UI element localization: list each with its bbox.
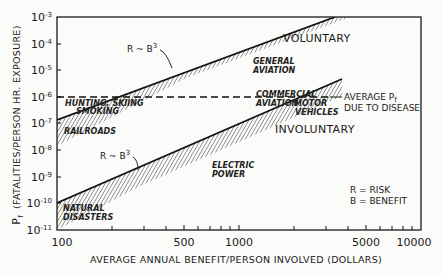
x-axis-title: AVERAGE ANNUAL BENEFIT/PERSON INVOLVED (…	[90, 254, 382, 265]
svg-text:5000: 5000	[352, 236, 380, 249]
svg-text:10-10: 10-10	[27, 197, 52, 210]
rb3-voluntary-label: R ~ B3	[127, 42, 157, 54]
svg-text:10-8: 10-8	[31, 144, 52, 157]
natural-disasters-label-2: DISASTERS	[63, 213, 113, 222]
risk-benefit-chart: 10-3 10-4 10-5 10-6 10-7 10-8 10-9 10-10…	[0, 0, 442, 274]
general-aviation-label: GENERAL	[253, 57, 295, 66]
svg-text:10-6: 10-6	[31, 91, 53, 104]
rb3-voluntary-arrow	[160, 50, 172, 68]
smoking-label: SMOKING	[76, 107, 119, 116]
natural-disasters-label: NATURAL	[63, 204, 105, 213]
svg-text:10-3: 10-3	[31, 11, 52, 24]
svg-text:100: 100	[52, 236, 73, 249]
voluntary-label: VOLUNTARY	[283, 32, 351, 45]
disease-label-2: DUE TO DISEASE	[344, 103, 420, 113]
legend-risk: R = RISK	[350, 185, 391, 195]
general-aviation-label-2: AVIATION	[252, 66, 295, 75]
svg-text:10-7: 10-7	[31, 117, 52, 130]
svg-text:500: 500	[174, 236, 195, 249]
commercial-aviation-label-2: AVIATION	[255, 99, 298, 108]
electric-power-label: ELECTRIC	[212, 161, 254, 170]
svg-text:10-9: 10-9	[31, 171, 52, 184]
involuntary-label: INVOLUNTARY	[275, 123, 355, 136]
commercial-aviation-label: COMMERCIAL	[256, 90, 316, 99]
x-tick-labels: 100 500 1000 5000 10000	[52, 236, 432, 249]
motor-vehicles-label: MOTOR	[294, 99, 327, 108]
svg-text:10-5: 10-5	[31, 64, 52, 77]
svg-text:10000: 10000	[397, 236, 432, 249]
rb3-involuntary-label: R ~ B3	[100, 149, 130, 161]
svg-text:10-4: 10-4	[31, 38, 53, 51]
railroads-label: RAILROADS	[64, 127, 116, 136]
electric-power-label-2: POWER	[212, 170, 245, 179]
svg-text:1000: 1000	[225, 236, 253, 249]
legend-benefit: B = BENEFIT	[350, 196, 408, 206]
svg-text:Pf(FATALITIES/PERSON HR. EXPOS: Pf(FATALITIES/PERSON HR. EXPOSURE)	[10, 25, 25, 224]
x-axis	[112, 225, 412, 230]
y-axis-title: Pf(FATALITIES/PERSON HR. EXPOSURE)	[10, 25, 25, 224]
motor-vehicles-label-2: VEHICLES	[295, 108, 339, 117]
y-tick-labels: 10-3 10-4 10-5 10-6 10-7 10-8 10-9 10-10…	[27, 11, 53, 237]
svg-text:10-11: 10-11	[27, 224, 52, 237]
